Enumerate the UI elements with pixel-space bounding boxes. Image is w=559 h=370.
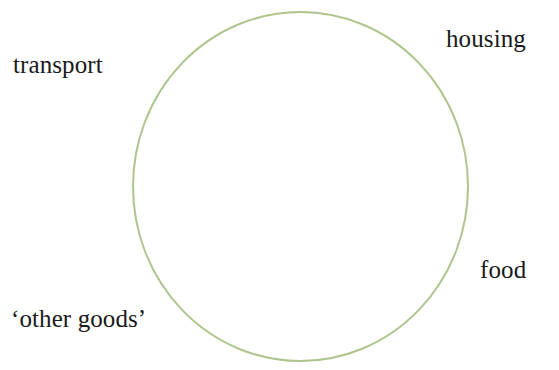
circle-outline	[133, 12, 468, 361]
label-housing: housing	[446, 26, 526, 51]
label-transport: transport	[13, 52, 103, 77]
label-food: food	[480, 257, 526, 282]
label-other-goods: ‘other goods’	[11, 306, 146, 331]
diagram-canvas: transport housing food ‘other goods’	[0, 0, 559, 370]
